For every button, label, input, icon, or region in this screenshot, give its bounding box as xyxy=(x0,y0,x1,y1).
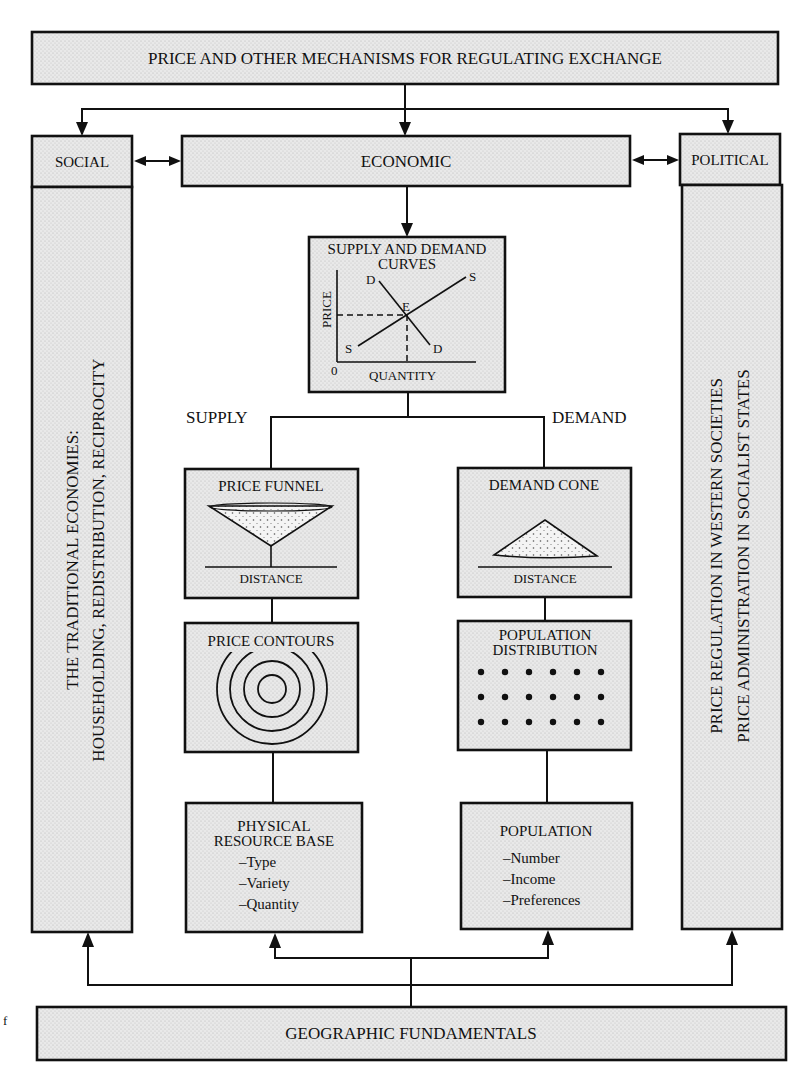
population-dot xyxy=(502,694,508,700)
physical-resource-item: –Type xyxy=(238,854,277,870)
physical-resource-title-line1: PHYSICAL xyxy=(237,818,310,834)
double-arrow-right-icon xyxy=(169,156,181,166)
demand-cone-title: DEMAND CONE xyxy=(489,477,599,493)
population-dot xyxy=(502,719,508,725)
double-arrow-left-icon xyxy=(134,156,146,166)
arrow-to-political xyxy=(722,120,734,134)
x-axis-label: QUANTITY xyxy=(369,368,437,383)
political-body-box xyxy=(682,185,782,929)
population-dot xyxy=(574,719,580,725)
physical-resource-title-line2: RESOURCE BASE xyxy=(214,833,334,849)
population-dot xyxy=(598,694,604,700)
bottom-box-label: GEOGRAPHIC FUNDAMENTALS xyxy=(285,1024,536,1043)
population-dot xyxy=(478,694,484,700)
population-distribution-title-line2: DISTRIBUTION xyxy=(493,642,598,658)
demand-label-top: D xyxy=(366,272,375,287)
population-dot xyxy=(574,694,580,700)
political-header-label: POLITICAL xyxy=(691,152,769,168)
price-contours-box: PRICE CONTOURS xyxy=(185,623,358,752)
population-dot xyxy=(526,669,532,675)
top-connectors xyxy=(76,84,734,136)
price-funnel-box: PRICE FUNNEL DISTANCE xyxy=(185,469,358,598)
population-distribution-box: POPULATION DISTRIBUTION xyxy=(458,621,631,750)
population-dot xyxy=(502,669,508,675)
population-dot xyxy=(550,719,556,725)
population-dot xyxy=(598,669,604,675)
arrow-to-social xyxy=(82,932,94,947)
arrow-to-social xyxy=(76,122,88,136)
population-dot xyxy=(526,694,532,700)
economic-exchange-diagram: PRICE AND OTHER MECHANISMS FOR REGULATIN… xyxy=(0,0,804,1082)
population-dot xyxy=(550,669,556,675)
arrow-to-population xyxy=(542,930,554,945)
double-arrow-right-icon xyxy=(667,155,679,165)
supply-demand-title-line1: SUPPLY AND DEMAND xyxy=(328,241,487,257)
population-dot xyxy=(478,669,484,675)
economic-box: ECONOMIC xyxy=(182,136,630,186)
social-body-box xyxy=(32,187,132,932)
arrow-to-economic xyxy=(399,122,411,136)
supply-demand-box: SUPPLY AND DEMAND CURVES PRICE 0 QUANTIT… xyxy=(309,237,505,392)
population-distribution-title-line1: POPULATION xyxy=(499,627,592,643)
physical-resource-item: –Variety xyxy=(238,875,290,891)
supply-label-bottom: S xyxy=(345,341,352,356)
economic-label: ECONOMIC xyxy=(361,152,452,171)
supply-demand-branch: SUPPLY DEMAND xyxy=(186,392,627,469)
equilibrium-label: E xyxy=(402,299,410,314)
supply-branch-label: SUPPLY xyxy=(186,408,248,427)
physical-resource-base-box: PHYSICAL RESOURCE BASE –Type –Variety –Q… xyxy=(186,803,362,932)
arrow-to-supply-demand xyxy=(401,223,413,237)
social-body-line2: HOUSEHOLDING, REDISTRIBUTION, RECIPROCIT… xyxy=(89,358,108,761)
margin-mark: f xyxy=(3,1013,8,1028)
population-dot xyxy=(574,669,580,675)
top-box-label: PRICE AND OTHER MECHANISMS FOR REGULATIN… xyxy=(148,49,662,68)
population-item: –Preferences xyxy=(502,892,581,908)
demand-cone-box: DEMAND CONE DISTANCE xyxy=(458,468,631,597)
political-body-line2: PRICE ADMINISTRATION IN SOCIALIST STATES xyxy=(734,369,753,742)
social-economic-link xyxy=(134,156,181,166)
arrow-to-political xyxy=(726,930,738,945)
bottom-box-geographic-fundamentals: GEOGRAPHIC FUNDAMENTALS xyxy=(37,1007,786,1060)
supply-label-top: S xyxy=(469,269,476,284)
y-axis-label: PRICE xyxy=(319,291,334,328)
price-contours-title: PRICE CONTOURS xyxy=(208,633,335,649)
demand-cone-axis-label: DISTANCE xyxy=(513,571,576,586)
top-box-regulating-exchange: PRICE AND OTHER MECHANISMS FOR REGULATIN… xyxy=(32,32,778,84)
population-dot xyxy=(598,719,604,725)
demand-label-bottom: D xyxy=(433,341,442,356)
arrow-to-physical-resource xyxy=(269,933,281,948)
physical-resource-item: –Quantity xyxy=(238,896,299,912)
double-arrow-left-icon xyxy=(632,155,644,165)
political-body-line1: PRICE REGULATION IN WESTERN SOCIETIES xyxy=(707,378,726,734)
origin-label: 0 xyxy=(331,363,338,378)
population-dot xyxy=(550,694,556,700)
population-dot xyxy=(478,719,484,725)
price-funnel-axis-label: DISTANCE xyxy=(239,571,302,586)
population-item: –Income xyxy=(502,871,556,887)
political-column: POLITICAL PRICE REGULATION IN WESTERN SO… xyxy=(680,134,782,929)
price-funnel-title: PRICE FUNNEL xyxy=(218,478,323,494)
population-item: –Number xyxy=(502,850,560,866)
population-title: POPULATION xyxy=(500,823,593,839)
social-body-line1: THE TRADITIONAL ECONOMIES: xyxy=(63,430,82,690)
social-column: SOCIAL THE TRADITIONAL ECONOMIES: HOUSEH… xyxy=(32,136,132,932)
population-dot xyxy=(526,719,532,725)
population-box: POPULATION –Number –Income –Preferences xyxy=(461,803,632,929)
supply-demand-title-line2: CURVES xyxy=(378,256,436,272)
social-header-label: SOCIAL xyxy=(55,154,109,170)
economic-political-link xyxy=(632,155,679,165)
bottom-connectors xyxy=(82,930,738,1006)
demand-branch-label: DEMAND xyxy=(552,408,627,427)
